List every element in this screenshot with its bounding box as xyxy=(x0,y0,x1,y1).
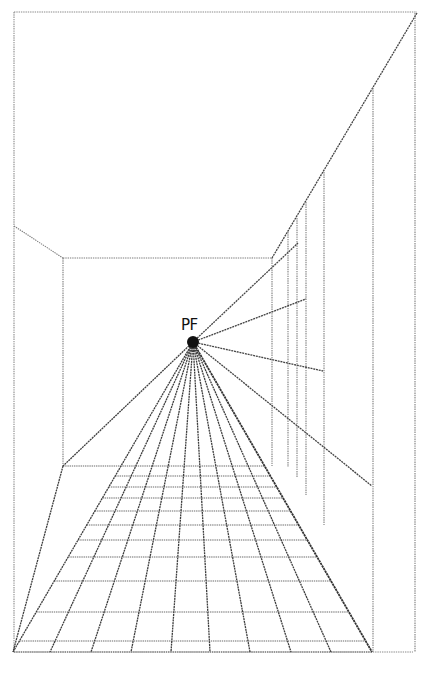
perspective-drawing: PF xyxy=(0,0,441,680)
left-ceiling-edge xyxy=(14,226,63,258)
right-wall-ray xyxy=(193,299,306,342)
right-wall-ray xyxy=(193,342,372,486)
floor-grid-ray xyxy=(171,342,193,652)
vanishing-point-dot xyxy=(187,336,199,348)
one-point-perspective-svg xyxy=(0,0,441,680)
floor-grid xyxy=(13,342,372,652)
floor-left-edge xyxy=(13,466,63,652)
floor-right-edge xyxy=(193,342,372,652)
right-wall-ray xyxy=(193,342,323,371)
floor-grid-ray xyxy=(13,342,193,652)
floor-grid-ray xyxy=(193,342,331,652)
pf-label: PF xyxy=(181,316,198,334)
floor-grid-ray xyxy=(91,342,193,652)
vanishing-rays xyxy=(193,243,372,486)
floor-back-left-ray xyxy=(63,342,193,466)
right-ceiling-edge xyxy=(272,13,417,258)
floor-grid-ray xyxy=(50,342,193,652)
vanishing-point xyxy=(187,336,199,348)
room-walls xyxy=(14,13,417,652)
cutoff-caption xyxy=(0,0,441,2)
floor-grid-ray xyxy=(131,342,193,652)
outer-frame xyxy=(14,12,417,652)
